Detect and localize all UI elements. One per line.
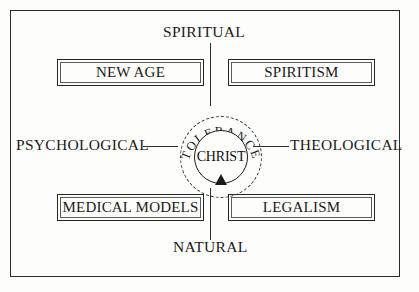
quadrant-box-legalism-label: LEGALISM <box>263 199 340 216</box>
quadrant-box-new-age-label: NEW AGE <box>96 64 165 81</box>
center-cluster: TOLERANCE CHRIST <box>180 116 262 198</box>
quadrant-box-medical-models-label: MEDICAL MODELS <box>63 199 199 216</box>
quadrant-box-new-age[interactable]: NEW AGE <box>57 59 204 86</box>
axis-line-vertical-upper <box>210 43 211 106</box>
pole-label-bottom: NATURAL <box>173 238 247 256</box>
quadrant-box-spiritism-label: SPIRITISM <box>264 64 338 81</box>
pole-label-top: SPIRITUAL <box>163 23 245 41</box>
pole-label-left: PSYCHOLOGICAL <box>16 136 149 154</box>
diagram-frame: SPIRITUAL NATURAL PSYCHOLOGICAL THEOLOGI… <box>10 10 400 277</box>
arrow-up-icon <box>215 174 227 185</box>
diagram-page: SPIRITUAL NATURAL PSYCHOLOGICAL THEOLOGI… <box>0 0 419 292</box>
pole-label-right: THEOLOGICAL <box>290 136 403 154</box>
quadrant-box-medical-models[interactable]: MEDICAL MODELS <box>57 194 204 221</box>
quadrant-box-spiritism[interactable]: SPIRITISM <box>228 59 375 86</box>
christ-circle-label: CHRIST <box>197 149 246 165</box>
